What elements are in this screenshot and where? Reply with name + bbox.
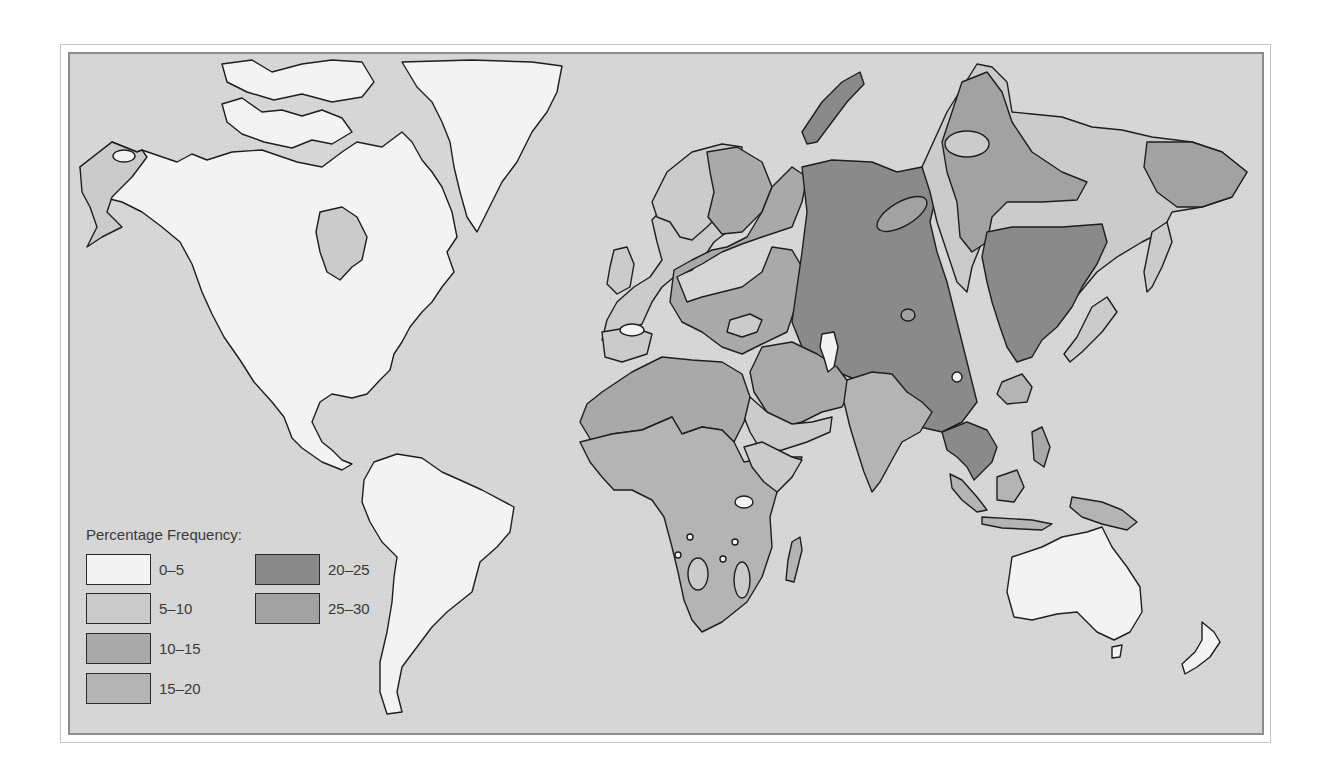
legend-item-5-10: 5–10 bbox=[86, 591, 192, 625]
legend-swatch bbox=[86, 673, 151, 704]
iberia-inner-zone bbox=[620, 324, 644, 336]
tibet-light-patch bbox=[952, 372, 962, 382]
legend-swatch bbox=[86, 593, 151, 624]
legend-item-25-30: 25–30 bbox=[255, 591, 370, 625]
legend-swatch bbox=[86, 554, 151, 585]
legend-item-20-25: 20–25 bbox=[255, 552, 370, 586]
legend: Percentage Frequency: 0–5 5–10 10–15 15–… bbox=[86, 526, 366, 716]
legend-item-10-15: 10–15 bbox=[86, 631, 201, 665]
legend-swatch bbox=[255, 593, 320, 624]
legend-swatch bbox=[255, 554, 320, 585]
africa-light-patch-2 bbox=[688, 558, 708, 590]
legend-label: 5–10 bbox=[159, 600, 192, 617]
alaska-island-zone bbox=[113, 150, 135, 162]
legend-title: Percentage Frequency: bbox=[86, 526, 242, 543]
region-tasmania[interactable] bbox=[1112, 645, 1122, 658]
legend-label: 20–25 bbox=[328, 561, 370, 578]
legend-item-15-20: 15–20 bbox=[86, 671, 201, 705]
siberia-light-patch bbox=[945, 131, 989, 157]
legend-label: 10–15 bbox=[159, 640, 201, 657]
legend-item-0-5: 0–5 bbox=[86, 552, 184, 586]
africa-light-patch-1 bbox=[735, 496, 753, 508]
central-asia-patch bbox=[901, 309, 915, 321]
legend-label: 25–30 bbox=[328, 600, 370, 617]
legend-label: 15–20 bbox=[159, 680, 201, 697]
africa-light-patch-3 bbox=[734, 562, 750, 598]
legend-label: 0–5 bbox=[159, 561, 184, 578]
legend-swatch bbox=[86, 633, 151, 664]
